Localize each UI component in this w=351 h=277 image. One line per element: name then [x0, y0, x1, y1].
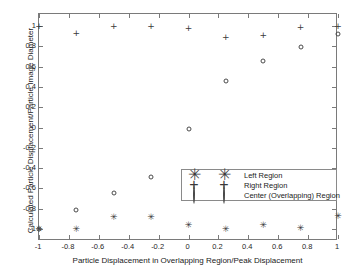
y-axis-tick — [39, 87, 43, 88]
data-point-asterisk: ✳ — [110, 213, 118, 222]
data-point-plus: + — [297, 23, 305, 32]
x-axis-tick — [159, 14, 160, 18]
x-axis-tick — [338, 235, 339, 239]
y-axis-tick — [39, 209, 43, 210]
data-point-plus: + — [147, 21, 155, 30]
y-axis-tick-label: -1 — [29, 223, 36, 232]
x-axis-tick — [99, 14, 100, 18]
y-axis-tick — [332, 229, 336, 230]
x-axis-tick-label: -0.8 — [61, 242, 74, 251]
y-axis-tick-label: 0 — [32, 122, 36, 131]
y-axis-tick — [332, 26, 336, 27]
y-axis-tick — [39, 26, 43, 27]
scatter-plot-figure: ✳✳✳✳✳✳✳✳✳+++++++++ Particle Displacement… — [0, 0, 351, 277]
y-axis-tick — [332, 148, 336, 149]
y-axis-tick — [39, 148, 43, 149]
legend-label: Center (Overlapping) Region — [244, 191, 340, 200]
data-point-plus: + — [110, 22, 118, 31]
y-axis-tick — [39, 46, 43, 47]
data-point-plus: + — [185, 23, 193, 32]
y-axis-tick — [332, 67, 336, 68]
circle-marker-icon — [223, 187, 225, 203]
y-axis-tick — [39, 188, 43, 189]
y-axis-tick-label: 0.4 — [26, 81, 36, 90]
x-axis-tick — [278, 14, 279, 18]
x-axis-tick — [308, 235, 309, 239]
y-axis-tick — [332, 107, 336, 108]
y-axis-tick-label: 1 — [32, 21, 36, 30]
x-axis-tick-label: 0.4 — [242, 242, 252, 251]
data-point-plus: + — [222, 33, 230, 42]
data-point-circle — [336, 31, 341, 36]
x-axis-title: Particle Displacement in Overlapping Reg… — [38, 256, 337, 265]
legend-label: Right Region — [244, 181, 287, 190]
x-axis-tick — [69, 235, 70, 239]
chart-legend: ✳ ✳ Left Region + + Right Region Center … — [181, 169, 337, 201]
x-axis-tick — [99, 235, 100, 239]
data-point-asterisk: ✳ — [222, 224, 230, 233]
x-axis-tick — [278, 235, 279, 239]
data-point-asterisk: ✳ — [334, 212, 342, 221]
x-axis-tick-label: -0.2 — [151, 242, 164, 251]
y-axis-tick — [332, 46, 336, 47]
x-axis-tick — [39, 235, 40, 239]
x-axis-tick — [69, 14, 70, 18]
data-point-asterisk: ✳ — [147, 213, 155, 222]
x-axis-tick-label: 0.2 — [212, 242, 222, 251]
data-point-plus: + — [73, 28, 81, 37]
y-axis-tick-label: -0.4 — [23, 163, 36, 172]
y-axis-tick — [39, 128, 43, 129]
x-axis-tick — [189, 235, 190, 239]
data-point-asterisk: ✳ — [259, 221, 267, 230]
y-axis-tick — [39, 107, 43, 108]
data-point-circle — [261, 58, 266, 63]
legend-item-center-region: Center (Overlapping) Region — [182, 191, 336, 200]
y-axis-tick — [39, 229, 43, 230]
y-axis-tick — [332, 87, 336, 88]
y-axis-tick-label: -0.2 — [23, 142, 36, 151]
plot-area: ✳✳✳✳✳✳✳✳✳+++++++++ — [38, 13, 337, 240]
y-axis-tick — [332, 128, 336, 129]
legend-item-right-region: + + Right Region — [182, 181, 336, 190]
data-point-asterisk: ✳ — [185, 221, 193, 230]
y-axis-tick-label: -0.6 — [23, 183, 36, 192]
data-point-circle — [149, 174, 154, 179]
x-axis-tick-label: 0 — [185, 242, 189, 251]
data-point-asterisk: ✳ — [73, 224, 81, 233]
y-axis-tick — [332, 209, 336, 210]
x-axis-tick-label: -0.4 — [121, 242, 134, 251]
x-axis-tick — [39, 14, 40, 18]
circle-marker-icon — [193, 187, 195, 203]
x-axis-tick — [218, 235, 219, 239]
data-point-asterisk: ✳ — [297, 223, 305, 232]
x-axis-tick — [308, 14, 309, 18]
x-axis-tick — [159, 235, 160, 239]
x-axis-tick-label: 1 — [335, 242, 339, 251]
x-axis-tick — [129, 14, 130, 18]
x-axis-tick-label: 0.8 — [302, 242, 312, 251]
legend-label: Left Region — [244, 171, 282, 180]
y-axis-tick-label: -0.8 — [23, 203, 36, 212]
x-axis-tick — [248, 235, 249, 239]
x-axis-tick-label: -1 — [35, 242, 42, 251]
y-axis-tick — [39, 168, 43, 169]
y-axis-tick-label: 0.2 — [26, 102, 36, 111]
data-point-circle — [298, 45, 303, 50]
x-axis-tick-label: 0.6 — [272, 242, 282, 251]
data-point-plus: + — [259, 31, 267, 40]
data-point-circle — [223, 78, 228, 83]
y-axis-tick-label: 0.8 — [26, 41, 36, 50]
data-point-circle — [111, 191, 116, 196]
y-axis-tick — [39, 67, 43, 68]
x-axis-tick — [338, 14, 339, 18]
data-point-circle — [186, 126, 191, 131]
data-point-circle — [74, 207, 79, 212]
x-axis-tick — [129, 235, 130, 239]
y-axis-tick-label: 0.6 — [26, 61, 36, 70]
x-axis-tick — [218, 14, 219, 18]
x-axis-tick-label: -0.6 — [91, 242, 104, 251]
legend-item-left-region: ✳ ✳ Left Region — [182, 171, 336, 180]
x-axis-tick — [248, 14, 249, 18]
x-axis-tick — [189, 14, 190, 18]
